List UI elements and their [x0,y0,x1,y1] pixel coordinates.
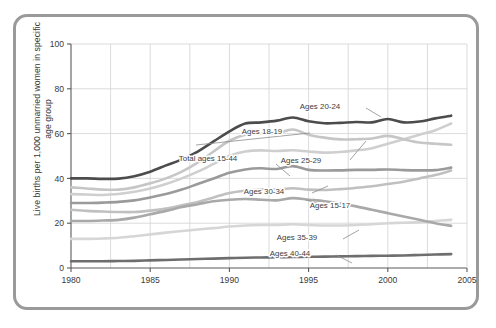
chart-container: Live births per 1,000 unmarried women in… [0,0,496,328]
x-tick-label: 2005 [457,275,476,285]
y-tick-label: 20 [54,218,64,228]
series-annotation-ages-30-34: Ages 30-34 [244,187,285,196]
series-line-total-ages-15-44 [71,166,451,203]
x-tick-label: 2000 [378,275,397,285]
x-tick-label: 1990 [220,275,239,285]
y-tick-label: 80 [54,84,64,94]
x-tick-label: 1980 [61,275,80,285]
chart-page: Live births per 1,000 unmarried women in… [0,0,496,328]
series-annotation-ages-20-24: Ages 20-24 [300,102,341,111]
x-tick-label: 1985 [141,275,160,285]
series-annotation-total-ages-15-44: Total ages 15-44 [179,154,238,163]
line-chart-plot: 020406080100198019851990199520002005Ages… [0,0,496,328]
series-annotation-ages-40-44: Ages 40-44 [270,249,311,258]
series-line-ages-18-19 [71,130,451,190]
annotation-leader-line [343,230,359,239]
annotation-leader-line [366,108,381,117]
series-annotation-ages-25-29: Ages 25-29 [281,156,322,165]
series-line-ages-35-39 [71,220,451,239]
series-line-ages-40-44 [71,254,451,261]
series-annotation-ages-15-17: Ages 15-17 [310,201,350,210]
y-tick-label: 40 [54,174,64,184]
x-tick-label: 1995 [299,275,318,285]
series-annotation-ages-35-39: Ages 35-39 [277,233,318,242]
series-annotation-ages-18-19: Ages 18-19 [242,127,283,136]
y-tick-label: 0 [59,263,64,273]
y-tick-label: 100 [50,39,65,49]
y-tick-label: 60 [54,129,64,139]
